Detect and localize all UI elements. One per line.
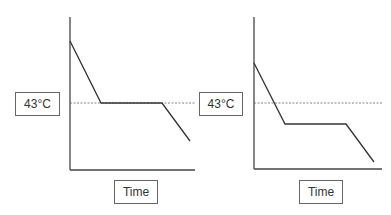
left-panel [70, 17, 195, 170]
right-temperature-curve [254, 63, 374, 162]
right-panel [254, 17, 382, 169]
right-temperature-label: 43°C [199, 92, 243, 116]
right-time-label: Time [299, 180, 343, 204]
left-temperature-label: 43°C [15, 92, 60, 116]
left-time-label: Time [114, 180, 158, 204]
left-temperature-curve [70, 41, 190, 141]
